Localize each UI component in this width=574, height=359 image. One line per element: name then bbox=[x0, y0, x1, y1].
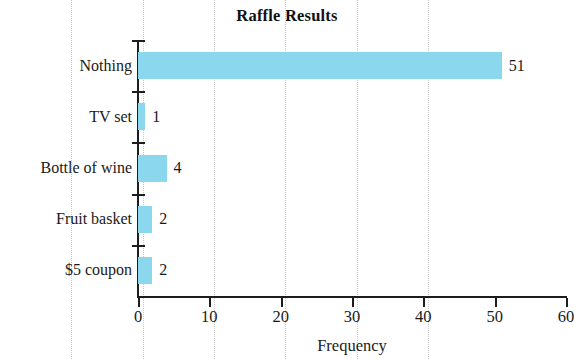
table-row: 2 bbox=[138, 257, 152, 284]
x-axis-tick-0 bbox=[138, 298, 140, 307]
category-label-3: Fruit basket bbox=[0, 210, 132, 228]
table-row: 2 bbox=[138, 206, 152, 233]
y-axis-tick-3 bbox=[132, 194, 145, 196]
x-axis-tick-20 bbox=[281, 298, 283, 307]
x-axis-tick-10 bbox=[209, 298, 211, 307]
y-axis-tick-1 bbox=[132, 91, 145, 93]
raffle-results-chart: Raffle Results 511422 NothingTV setBottl… bbox=[0, 0, 574, 359]
x-axis-tick-label-10: 10 bbox=[201, 307, 218, 327]
x-axis-tick-40 bbox=[423, 298, 425, 307]
category-label-4: $5 coupon bbox=[0, 261, 132, 279]
y-axis-tick-2 bbox=[132, 142, 145, 144]
x-axis-tick-label-50: 50 bbox=[486, 307, 503, 327]
bar-3 bbox=[138, 206, 152, 233]
x-axis-tick-label-0: 0 bbox=[134, 307, 142, 327]
category-label-0: Nothing bbox=[0, 57, 132, 75]
table-row: 1 bbox=[138, 103, 145, 130]
x-axis-tick-60 bbox=[566, 298, 568, 307]
bar-value-label-3: 2 bbox=[159, 210, 167, 228]
bar-value-label-4: 2 bbox=[159, 261, 167, 279]
bar-2 bbox=[138, 155, 167, 182]
y-axis-tick-0 bbox=[132, 40, 145, 42]
bar-value-label-1: 1 bbox=[152, 108, 160, 126]
bar-0 bbox=[138, 52, 502, 79]
x-axis-title: Frequency bbox=[138, 336, 566, 356]
x-axis-tick-label-60: 60 bbox=[558, 307, 574, 327]
bar-value-label-0: 51 bbox=[509, 57, 525, 75]
x-axis-tick-30 bbox=[352, 298, 354, 307]
bar-1 bbox=[138, 103, 145, 130]
category-label-2: Bottle of wine bbox=[0, 159, 132, 177]
x-axis-tick-label-20: 20 bbox=[272, 307, 289, 327]
bar-value-label-2: 4 bbox=[174, 159, 182, 177]
table-row: 51 bbox=[138, 52, 502, 79]
y-axis-tick-4 bbox=[132, 245, 145, 247]
x-axis-tick-label-40: 40 bbox=[415, 307, 432, 327]
table-row: 4 bbox=[138, 155, 167, 182]
gridline-10 bbox=[71, 0, 73, 359]
x-axis-tick-50 bbox=[495, 298, 497, 307]
chart-title: Raffle Results bbox=[0, 6, 574, 26]
category-label-1: TV set bbox=[0, 108, 132, 126]
x-axis-tick-label-30: 30 bbox=[344, 307, 361, 327]
bar-4 bbox=[138, 257, 152, 284]
